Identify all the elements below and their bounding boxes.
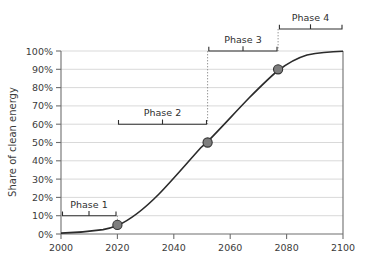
x-tick-label-2040: 2040	[162, 242, 186, 253]
y-tick-labels: 100% 90% 80% 70% 60% 50% 40% 30% 20% 10%…	[26, 46, 53, 240]
y-tick-label-40: 40%	[32, 155, 53, 166]
gridlines	[61, 51, 343, 216]
phase-3-label: Phase 3	[224, 34, 261, 45]
x-tick-label-2060: 2060	[218, 242, 242, 253]
phase-1-label: Phase 1	[70, 199, 107, 210]
y-tick-label-80: 80%	[32, 82, 53, 93]
x-tick-label-2100: 2100	[331, 242, 355, 253]
x-tick-label-2020: 2020	[105, 242, 129, 253]
x-tick-marks	[61, 234, 343, 239]
x-tick-label-2080: 2080	[275, 242, 299, 253]
chart-canvas: 100% 90% 80% 70% 60% 50% 40% 30% 20% 10%…	[0, 0, 366, 271]
phase-4-annotation: Phase 4	[279, 12, 342, 29]
reference-lines	[117, 29, 278, 229]
y-tick-label-50: 50%	[32, 137, 53, 148]
phase-1-annotation: Phase 1	[63, 199, 117, 216]
y-axis-title: Share of clean energy	[7, 87, 18, 197]
y-tick-label-60: 60%	[32, 119, 53, 130]
data-point-2052	[203, 138, 212, 147]
y-tick-label-10: 10%	[32, 210, 53, 221]
y-tick-label-70: 70%	[32, 100, 53, 111]
phase-2-label: Phase 2	[144, 107, 181, 118]
phase-2-annotation: Phase 2	[119, 107, 207, 124]
x-tick-label-2000: 2000	[49, 242, 73, 253]
y-tick-label-30: 30%	[32, 174, 53, 185]
phase-4-label: Phase 4	[292, 12, 329, 23]
y-tick-label-90: 90%	[32, 64, 53, 75]
data-point-2077	[274, 65, 283, 74]
x-tick-labels: 2000 2020 2040 2060 2080 2100	[49, 242, 355, 253]
clean-energy-s-curve-chart: 100% 90% 80% 70% 60% 50% 40% 30% 20% 10%…	[0, 0, 366, 271]
phase-3-annotation: Phase 3	[209, 34, 277, 51]
data-point-2020	[113, 220, 122, 229]
y-tick-label-20: 20%	[32, 192, 53, 203]
y-tick-label-100: 100%	[26, 46, 53, 57]
y-tick-marks	[56, 51, 61, 234]
y-tick-label-0: 0%	[38, 229, 53, 240]
